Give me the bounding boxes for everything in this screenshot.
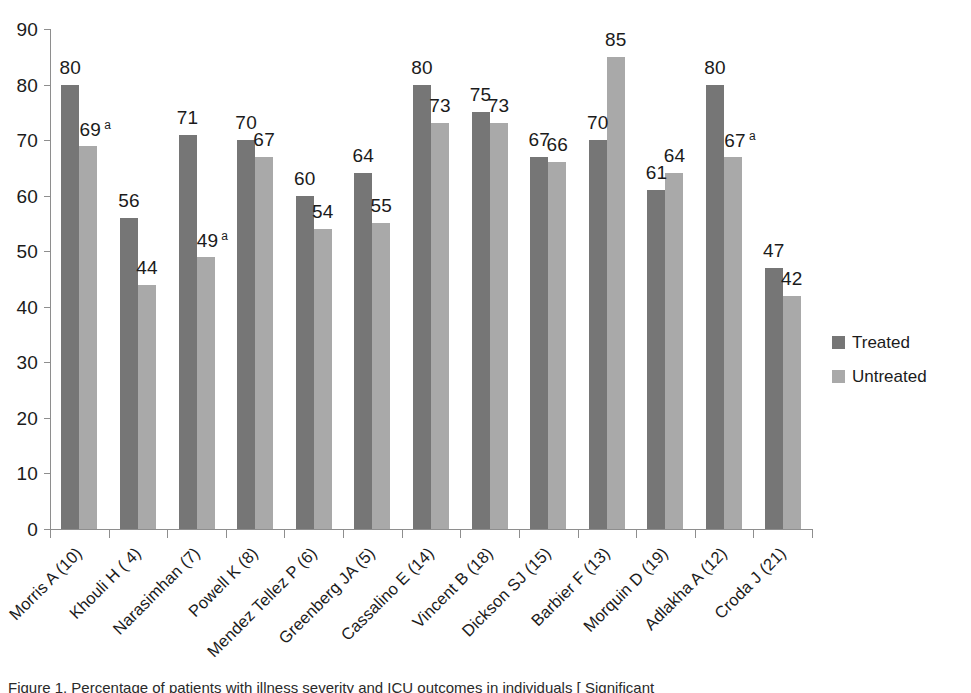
- x-axis-tick: [109, 530, 110, 538]
- x-axis-line: [50, 529, 813, 530]
- x-axis-tick: [284, 530, 285, 538]
- x-axis-tick: [402, 530, 403, 538]
- x-axis-tick: [753, 530, 754, 538]
- plot-area: 8069a56447149a70676054645580737573676670…: [50, 29, 812, 529]
- y-axis-tick-label: 20: [0, 409, 38, 428]
- y-axis-tick-label: 40: [0, 298, 38, 317]
- bar-treated[interactable]: [765, 268, 783, 529]
- bar-group: 4742: [50, 29, 812, 529]
- legend-label: Untreated: [852, 368, 927, 385]
- x-axis-tick: [167, 530, 168, 538]
- x-axis-tick: [636, 530, 637, 538]
- legend-swatch-treated-icon: [832, 336, 845, 349]
- bar-value-label: 42: [781, 269, 803, 288]
- legend-item-treated[interactable]: Treated: [832, 325, 962, 359]
- y-axis-tick-label: 60: [0, 187, 38, 206]
- y-axis-tick-label: 0: [0, 520, 38, 539]
- legend-label: Treated: [852, 334, 910, 351]
- x-axis-tick: [50, 530, 51, 538]
- bar-value-label: 47: [763, 241, 785, 260]
- bar-chart: 9080706050403020100 8069a56447149a706760…: [0, 0, 971, 693]
- y-axis-tick-label: 50: [0, 242, 38, 261]
- y-axis-tick-label: 80: [0, 76, 38, 95]
- bar-untreated[interactable]: [783, 296, 801, 529]
- legend-item-untreated[interactable]: Untreated: [832, 359, 962, 393]
- y-axis-tick-label: 10: [0, 464, 38, 483]
- x-axis-tick: [519, 530, 520, 538]
- x-axis-tick: [226, 530, 227, 538]
- x-axis-tick: [578, 530, 579, 538]
- x-axis-tick: [460, 530, 461, 538]
- y-axis-tick-label: 70: [0, 131, 38, 150]
- y-axis-tick-label: 90: [0, 20, 38, 39]
- legend: TreatedUntreated: [832, 325, 962, 393]
- x-axis-tick: [695, 530, 696, 538]
- x-axis-tick: [343, 530, 344, 538]
- legend-swatch-untreated-icon: [832, 370, 845, 383]
- y-axis-tick-label: 30: [0, 353, 38, 372]
- x-axis-tick: [812, 530, 813, 538]
- x-axis-category-label: Narasimhan (7): [0, 544, 202, 693]
- figure-caption: Figure 1. Percentage of patients with il…: [8, 679, 968, 693]
